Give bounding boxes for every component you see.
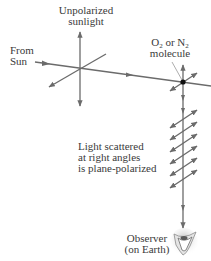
label-line: (on Earth) [118, 244, 176, 255]
observer-label: Observer (on Earth) [118, 233, 176, 255]
molecule-label: O2 or N2 molecule [145, 37, 195, 59]
label-line: is plane-polarized [78, 163, 157, 174]
unpolarized-sunlight-axes [49, 32, 106, 106]
label-line: Sun [10, 56, 34, 67]
label-line: sunlight [58, 16, 114, 27]
diagonal-field-arrow-down [49, 69, 80, 87]
unpolarized-sunlight-label: Unpolarized sunlight [58, 5, 114, 27]
scattered-light-label: Light scattered at right angles is plane… [78, 141, 157, 174]
diagonal-field-arrow-up [80, 54, 106, 69]
molecule-dot [180, 79, 185, 84]
scattered-ray [181, 65, 185, 228]
ray-direction-arrowhead [126, 73, 133, 78]
from-sun-label: From Sun [10, 45, 34, 67]
molecule-leader-line [172, 62, 182, 80]
label-line: molecule [145, 48, 195, 59]
